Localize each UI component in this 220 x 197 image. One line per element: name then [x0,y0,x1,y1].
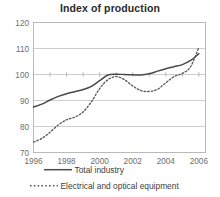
x-axis-tick-label: 2004 [157,157,176,166]
gridlines [34,49,206,127]
legend-label-1: Total industry [75,165,125,175]
y-axis-tick-label: 100 [15,71,29,80]
y-axis-tick-label: 110 [16,45,29,54]
data-series [34,47,199,142]
y-axis-tick-labels: 708090100110120 [15,19,29,158]
plot-frame [34,23,206,153]
x-axis-tick-label: 2002 [124,157,143,166]
x-axis-tick-label: 2006 [190,157,209,166]
series-line-2 [34,47,199,142]
chart-plot: 708090100110120 199619982000200220042006… [0,0,220,197]
legend-label-2: Electrical and optical equipment [61,181,180,191]
y-axis-tick-label: 90 [20,97,30,106]
x-axis-tick-label: 1996 [24,157,43,166]
y-axis-tick-label: 80 [20,123,30,132]
y-axis-tick-label: 120 [15,19,29,28]
chart-legend: Total industryElectrical and optical equ… [30,165,179,191]
x-axis-tick-label: 1998 [57,157,76,166]
series-line-1 [34,54,199,107]
chart-container: Index of production 708090100110120 1996… [0,0,220,197]
